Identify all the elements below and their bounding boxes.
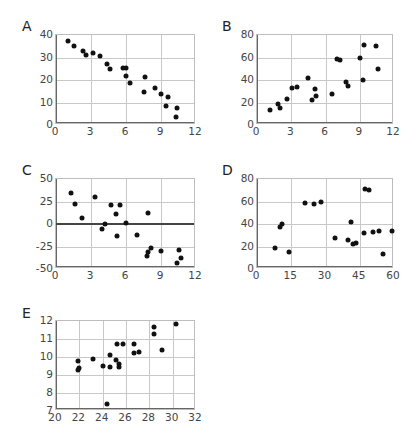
x-tick-label: 45 — [352, 269, 365, 281]
data-point — [108, 203, 113, 208]
y-tick-label: 30 — [25, 51, 53, 63]
data-point — [354, 241, 359, 246]
gridline-horizontal — [56, 103, 194, 104]
data-point — [273, 245, 278, 250]
data-point — [72, 202, 77, 207]
x-tick-label: 6 — [321, 125, 328, 137]
plot-area — [256, 34, 393, 124]
x-axis-line — [56, 408, 194, 409]
gridline-vertical — [126, 35, 127, 123]
data-point — [146, 211, 151, 216]
gridline-vertical — [161, 35, 162, 123]
x-tick-label: 3 — [287, 125, 294, 137]
x-axis-line — [56, 122, 194, 123]
gridline-vertical — [126, 321, 127, 409]
data-point — [134, 232, 139, 237]
y-tick-label: 8 — [25, 386, 53, 398]
data-point — [294, 84, 299, 89]
plot-area — [55, 178, 195, 268]
data-point — [98, 54, 103, 59]
data-point — [117, 364, 122, 369]
gridline-horizontal — [257, 202, 392, 203]
gridline-horizontal — [56, 375, 194, 376]
gridline-vertical — [91, 35, 92, 123]
data-point — [65, 38, 70, 43]
data-point — [174, 321, 179, 326]
data-point — [362, 43, 367, 48]
data-point — [127, 81, 132, 86]
y-tick-label: 40 — [25, 28, 53, 40]
x-axis-line — [257, 122, 392, 123]
data-point — [380, 252, 385, 257]
gridline-vertical — [326, 35, 327, 123]
y-tick-label: 50 — [25, 172, 53, 184]
x-tick-label: 30 — [165, 411, 178, 423]
gridline-horizontal — [56, 58, 194, 59]
data-point — [313, 87, 318, 92]
data-point — [107, 353, 112, 358]
data-point — [124, 221, 129, 226]
data-point — [103, 222, 108, 227]
y-tick-label: -25 — [25, 240, 53, 252]
gridline-horizontal — [56, 247, 194, 248]
y-tick-label: 0 — [25, 118, 53, 130]
data-point — [105, 401, 110, 406]
y-tick-label: 60 — [226, 51, 254, 63]
data-point — [346, 237, 351, 242]
data-point — [376, 66, 381, 71]
data-point — [153, 85, 158, 90]
gridline-vertical — [291, 179, 292, 267]
x-tick-label: 32 — [188, 411, 201, 423]
y-axis-line — [56, 35, 57, 123]
y-tick-label: 20 — [226, 240, 254, 252]
data-point — [357, 56, 362, 61]
data-point — [318, 200, 323, 205]
data-point — [148, 246, 153, 251]
gridline-vertical — [360, 179, 361, 267]
data-point — [267, 108, 272, 113]
data-point — [174, 115, 179, 120]
x-tick-label: 12 — [188, 269, 201, 281]
data-point — [284, 97, 289, 102]
data-point — [330, 91, 335, 96]
data-point — [141, 90, 146, 95]
data-point — [91, 356, 96, 361]
gridline-horizontal — [257, 80, 392, 81]
y-tick-label: -50 — [25, 262, 53, 274]
data-point — [124, 73, 129, 78]
data-point — [280, 222, 285, 227]
x-tick-label: 24 — [95, 411, 108, 423]
x-tick-label: 9 — [355, 125, 362, 137]
data-point — [312, 202, 317, 207]
gridline-horizontal — [56, 393, 194, 394]
y-tick-label: 60 — [226, 195, 254, 207]
gridline-vertical — [173, 321, 174, 409]
data-point — [332, 235, 337, 240]
data-point — [100, 364, 105, 369]
data-point — [346, 83, 351, 88]
data-point — [366, 188, 371, 193]
data-point — [309, 98, 314, 103]
y-tick-label: 80 — [226, 172, 254, 184]
data-point — [377, 228, 382, 233]
x-tick-label: 3 — [87, 125, 94, 137]
x-tick-label: 6 — [122, 269, 129, 281]
data-point — [107, 364, 112, 369]
y-tick-label: 11 — [25, 332, 53, 344]
x-tick-label: 12 — [386, 125, 399, 137]
plot-area — [55, 34, 195, 124]
data-point — [348, 219, 353, 224]
data-point — [152, 331, 157, 336]
gridline-horizontal — [257, 58, 392, 59]
x-tick-label: 60 — [386, 269, 399, 281]
data-point — [175, 106, 180, 111]
data-point — [132, 341, 137, 346]
data-point — [389, 228, 394, 233]
data-point — [373, 44, 378, 49]
y-axis-line — [257, 179, 258, 267]
y-tick-label: 12 — [25, 314, 53, 326]
y-tick-label: 10 — [25, 350, 53, 362]
data-point — [71, 44, 76, 49]
data-point — [175, 260, 180, 265]
data-point — [69, 191, 74, 196]
